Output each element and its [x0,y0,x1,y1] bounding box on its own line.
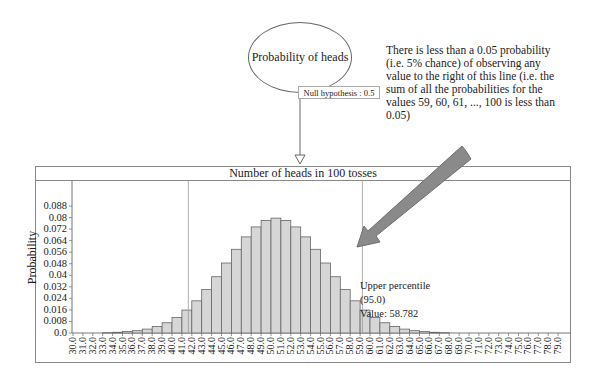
pointer-arrow-icon [0,0,590,381]
